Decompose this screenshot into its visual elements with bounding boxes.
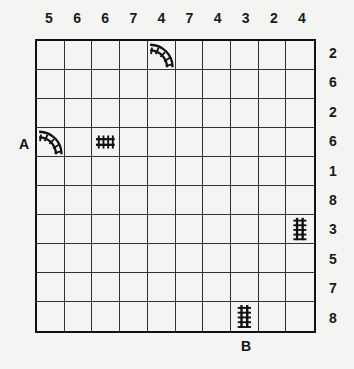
grid-cell[interactable] xyxy=(92,157,120,186)
grid-cell[interactable] xyxy=(37,157,65,186)
grid-cell[interactable] xyxy=(148,157,176,186)
grid-cell[interactable] xyxy=(148,99,176,128)
grid-cell[interactable] xyxy=(286,186,314,215)
grid-cell[interactable] xyxy=(120,128,148,157)
grid-cell[interactable] xyxy=(92,70,120,99)
grid-cell[interactable] xyxy=(176,70,204,99)
grid-cell[interactable] xyxy=(231,186,259,215)
grid-cell[interactable] xyxy=(176,186,204,215)
grid-cell[interactable] xyxy=(92,186,120,215)
grid-cell[interactable] xyxy=(286,157,314,186)
grid-cell[interactable] xyxy=(148,41,176,70)
grid-cell[interactable] xyxy=(203,70,231,99)
grid-cell[interactable] xyxy=(65,244,93,273)
grid-cell[interactable] xyxy=(259,273,287,302)
grid-cell[interactable] xyxy=(92,215,120,244)
grid-cell[interactable] xyxy=(37,215,65,244)
grid-cell[interactable] xyxy=(203,99,231,128)
grid-cell[interactable] xyxy=(120,244,148,273)
grid-cell[interactable] xyxy=(203,157,231,186)
grid-cell[interactable] xyxy=(65,128,93,157)
grid-cell[interactable] xyxy=(120,70,148,99)
grid-cell[interactable] xyxy=(286,41,314,70)
grid-cell[interactable] xyxy=(120,186,148,215)
grid-cell[interactable] xyxy=(231,128,259,157)
grid-cell[interactable] xyxy=(259,157,287,186)
grid-cell[interactable] xyxy=(259,128,287,157)
grid-cell[interactable] xyxy=(286,128,314,157)
grid-cell[interactable] xyxy=(65,70,93,99)
grid-cell[interactable] xyxy=(203,41,231,70)
grid-cell[interactable] xyxy=(231,244,259,273)
grid-cell[interactable] xyxy=(176,41,204,70)
grid-cell[interactable] xyxy=(120,273,148,302)
grid-cell[interactable] xyxy=(286,70,314,99)
grid-cell[interactable] xyxy=(176,273,204,302)
grid-cell[interactable] xyxy=(203,215,231,244)
grid-cell[interactable] xyxy=(176,157,204,186)
grid-cell[interactable] xyxy=(286,215,314,244)
grid-cell[interactable] xyxy=(65,186,93,215)
grid-cell[interactable] xyxy=(92,41,120,70)
grid-cell[interactable] xyxy=(92,99,120,128)
grid-cell[interactable] xyxy=(65,273,93,302)
grid-cell[interactable] xyxy=(65,302,93,331)
grid-cell[interactable] xyxy=(148,215,176,244)
grid-cell[interactable] xyxy=(148,302,176,331)
grid-cell[interactable] xyxy=(65,215,93,244)
grid-cell[interactable] xyxy=(259,244,287,273)
grid-cell[interactable] xyxy=(92,128,120,157)
grid-cell[interactable] xyxy=(259,70,287,99)
grid-cell[interactable] xyxy=(231,99,259,128)
grid-cell[interactable] xyxy=(231,157,259,186)
grid-cell[interactable] xyxy=(37,244,65,273)
grid-cell[interactable] xyxy=(92,302,120,331)
grid-cell[interactable] xyxy=(148,70,176,99)
grid-cell[interactable] xyxy=(286,302,314,331)
grid-cell[interactable] xyxy=(231,302,259,331)
grid-cell[interactable] xyxy=(176,215,204,244)
grid-cell[interactable] xyxy=(231,70,259,99)
grid-cell[interactable] xyxy=(231,215,259,244)
grid-cell[interactable] xyxy=(259,215,287,244)
grid-cell[interactable] xyxy=(176,128,204,157)
grid-cell[interactable] xyxy=(176,244,204,273)
grid-cell[interactable] xyxy=(259,41,287,70)
grid-cell[interactable] xyxy=(65,99,93,128)
grid-cell[interactable] xyxy=(203,302,231,331)
grid-cell[interactable] xyxy=(120,41,148,70)
grid-cell[interactable] xyxy=(203,186,231,215)
grid-cell[interactable] xyxy=(92,273,120,302)
grid-cell[interactable] xyxy=(37,99,65,128)
grid-cell[interactable] xyxy=(120,215,148,244)
grid-cell[interactable] xyxy=(286,99,314,128)
grid-cell[interactable] xyxy=(148,244,176,273)
grid-cell[interactable] xyxy=(203,128,231,157)
grid-cell[interactable] xyxy=(286,273,314,302)
grid-cell[interactable] xyxy=(37,128,65,157)
grid-cell[interactable] xyxy=(65,41,93,70)
grid-cell[interactable] xyxy=(286,244,314,273)
grid-cell[interactable] xyxy=(259,302,287,331)
grid-cell[interactable] xyxy=(148,273,176,302)
grid-cell[interactable] xyxy=(203,273,231,302)
grid-cell[interactable] xyxy=(176,302,204,331)
grid-cell[interactable] xyxy=(148,128,176,157)
grid-cell[interactable] xyxy=(37,41,65,70)
grid-cell[interactable] xyxy=(120,99,148,128)
grid-cell[interactable] xyxy=(231,41,259,70)
grid-cell[interactable] xyxy=(65,157,93,186)
grid-cell[interactable] xyxy=(259,186,287,215)
grid-cell[interactable] xyxy=(92,244,120,273)
grid-cell[interactable] xyxy=(37,302,65,331)
grid-cell[interactable] xyxy=(176,99,204,128)
grid-cell[interactable] xyxy=(120,302,148,331)
grid-cell[interactable] xyxy=(37,70,65,99)
grid-cell[interactable] xyxy=(231,273,259,302)
grid-cell[interactable] xyxy=(37,186,65,215)
grid-cell[interactable] xyxy=(120,157,148,186)
grid-cell[interactable] xyxy=(37,273,65,302)
grid-cell[interactable] xyxy=(203,244,231,273)
grid-cell[interactable] xyxy=(259,99,287,128)
grid-cell[interactable] xyxy=(148,186,176,215)
